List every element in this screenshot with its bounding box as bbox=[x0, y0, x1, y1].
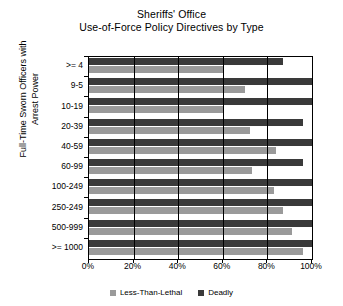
legend-item: Less-Than-Lethal bbox=[110, 288, 182, 297]
y-tick-label: >= 1000 bbox=[17, 242, 83, 252]
y-tick-label: 9-5 bbox=[17, 80, 83, 90]
bar-group bbox=[89, 239, 312, 259]
bar-less-than-lethal bbox=[89, 248, 303, 255]
bar-less-than-lethal bbox=[89, 127, 250, 134]
bar-less-than-lethal bbox=[89, 86, 245, 93]
y-tick-label: 20-39 bbox=[17, 121, 83, 131]
y-tick-label: 500-999 bbox=[17, 222, 83, 232]
bar-deadly bbox=[89, 220, 312, 227]
x-tick-label: 100% bbox=[291, 261, 331, 271]
bar-group bbox=[89, 219, 312, 239]
y-tick-label: 40-59 bbox=[17, 141, 83, 151]
bar-deadly bbox=[89, 58, 283, 65]
y-tick-label: 250-249 bbox=[17, 202, 83, 212]
x-tick-label: 40% bbox=[157, 261, 197, 271]
bar-less-than-lethal bbox=[89, 106, 223, 113]
chart-title-line-2: Use-of-Force Policy Directives by Type bbox=[0, 21, 343, 34]
chart-title-line-1: Sheriffs' Office bbox=[0, 8, 343, 21]
bar-deadly bbox=[89, 98, 312, 105]
bar-group bbox=[89, 138, 312, 158]
y-tick-label: 10-19 bbox=[17, 101, 83, 111]
bar-deadly bbox=[89, 139, 312, 146]
bar-group bbox=[89, 77, 312, 97]
x-tick-label: 80% bbox=[246, 261, 286, 271]
bar-series-container bbox=[89, 57, 312, 259]
chart-title: Sheriffs' Office Use-of-Force Policy Dir… bbox=[0, 8, 343, 34]
y-tick-mark bbox=[84, 197, 88, 198]
bar-group bbox=[89, 118, 312, 138]
bar-deadly bbox=[89, 240, 312, 247]
bar-deadly bbox=[89, 78, 312, 85]
y-tick-label: >= 4 bbox=[17, 60, 83, 70]
y-tick-mark bbox=[84, 157, 88, 158]
legend-label: Less-Than-Lethal bbox=[120, 288, 182, 297]
x-tick-label: 20% bbox=[113, 261, 153, 271]
legend-swatch-icon bbox=[110, 290, 116, 296]
y-tick-mark bbox=[84, 117, 88, 118]
bar-less-than-lethal bbox=[89, 207, 283, 214]
bar-deadly bbox=[89, 119, 303, 126]
y-tick-label: 100-249 bbox=[17, 181, 83, 191]
bar-less-than-lethal bbox=[89, 147, 276, 154]
legend-item: Deadly bbox=[198, 288, 233, 297]
y-tick-mark bbox=[84, 76, 88, 77]
y-tick-label: 60-99 bbox=[17, 161, 83, 171]
chart-legend: Less-Than-LethalDeadly bbox=[0, 288, 343, 297]
bar-deadly bbox=[89, 159, 303, 166]
legend-swatch-icon bbox=[198, 290, 204, 296]
y-tick-mark bbox=[84, 96, 88, 97]
x-tick-label: 60% bbox=[202, 261, 242, 271]
x-tick-label: 0% bbox=[68, 261, 108, 271]
plot-area bbox=[88, 56, 313, 260]
bar-group bbox=[89, 57, 312, 77]
bar-less-than-lethal bbox=[89, 228, 292, 235]
bar-deadly bbox=[89, 199, 312, 206]
bar-group bbox=[89, 178, 312, 198]
y-tick-mark bbox=[84, 218, 88, 219]
legend-label: Deadly bbox=[208, 288, 233, 297]
bar-less-than-lethal bbox=[89, 66, 223, 73]
bar-group bbox=[89, 97, 312, 117]
y-tick-mark bbox=[84, 177, 88, 178]
y-tick-mark bbox=[84, 137, 88, 138]
y-tick-mark bbox=[84, 238, 88, 239]
bar-group bbox=[89, 198, 312, 218]
bar-deadly bbox=[89, 179, 312, 186]
bar-group bbox=[89, 158, 312, 178]
bar-less-than-lethal bbox=[89, 187, 274, 194]
y-tick-mark bbox=[84, 56, 88, 57]
chart-figure: Sheriffs' Office Use-of-Force Policy Dir… bbox=[0, 0, 343, 306]
bar-less-than-lethal bbox=[89, 167, 252, 174]
